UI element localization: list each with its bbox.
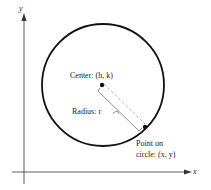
circle-point: [143, 125, 147, 129]
y-axis-arrow-icon: [22, 13, 27, 21]
radius-tick: [113, 111, 119, 114]
radius-dashed-line: [104, 84, 145, 124]
x-axis-label: x: [193, 167, 197, 176]
point-label-line2: circle: (x, y): [136, 150, 175, 159]
diagram-graphics: [0, 0, 211, 190]
radius-bracket: [98, 88, 142, 131]
x-axis-arrow-icon: [184, 170, 192, 175]
radius-label: Radius: r: [72, 107, 101, 116]
center-label: Center: (h, k): [70, 71, 113, 80]
circle-diagram: y x Center: (h, k) Radius: r Point on ci…: [0, 0, 211, 190]
point-label-line1: Point on: [136, 139, 163, 148]
y-axis-label: y: [19, 4, 23, 13]
center-point: [100, 83, 104, 87]
